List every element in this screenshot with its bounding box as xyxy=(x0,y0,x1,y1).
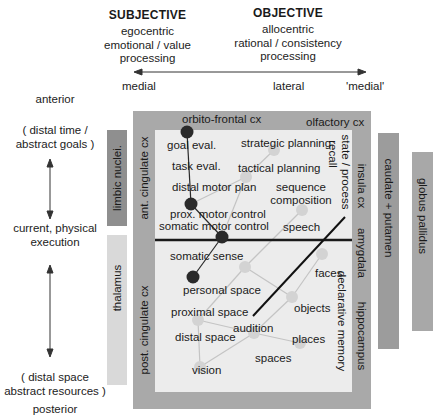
arrow-left-icon xyxy=(134,69,142,75)
label-places: places xyxy=(292,333,325,346)
composition-line: composition xyxy=(266,194,336,207)
label-somatic-sense: somatic sense xyxy=(170,250,244,263)
label-distal-space: distal space xyxy=(175,331,236,344)
label-speech: speech xyxy=(283,221,320,234)
label-faces: faces xyxy=(315,267,343,280)
label-distal-motor-plan: distal motor plan xyxy=(172,181,256,194)
label-spaces: spaces xyxy=(255,352,291,365)
label-strategic-planning: strategic planning xyxy=(241,137,331,150)
node-goal-eval xyxy=(181,126,194,139)
label-somatic-motor-control: somatic motor control xyxy=(159,220,269,233)
node-faces xyxy=(316,248,328,260)
label-task-eval: task eval. xyxy=(172,160,221,173)
label-vision: vision xyxy=(192,364,221,377)
arrow-up-icon xyxy=(47,159,53,167)
arrow-right-icon xyxy=(358,69,366,75)
label-personal-space: personal space xyxy=(183,284,261,297)
arrow-down-icon-lower xyxy=(47,349,53,357)
sequence-line: sequence xyxy=(266,181,336,194)
label-audition: audition xyxy=(233,322,273,335)
label-tactical-planning: tactical planning xyxy=(238,162,320,175)
label-proximal-space: proximal space xyxy=(171,306,248,319)
label-goal-eval: goal eval. xyxy=(167,139,216,152)
label-objects: objects xyxy=(294,302,330,315)
arrow-down-icon xyxy=(47,211,53,219)
label-sequence-composition: sequence composition xyxy=(266,181,336,207)
arrow-up-icon-lower xyxy=(47,265,53,273)
node-personal-space xyxy=(187,271,200,284)
